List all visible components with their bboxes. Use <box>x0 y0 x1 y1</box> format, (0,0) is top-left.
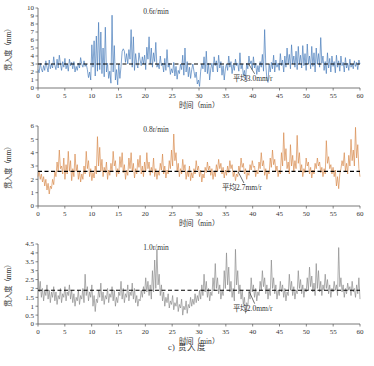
x-tick-label: 10 <box>88 210 96 218</box>
x-tick-label: 30 <box>196 210 204 218</box>
x-tick-label: 30 <box>196 92 204 100</box>
x-tick-label: 25 <box>169 210 177 218</box>
y-tick-label: 3 <box>31 60 35 68</box>
x-tick-label: 55 <box>330 328 338 336</box>
x-tick-label: 50 <box>303 210 311 218</box>
x-tick-label: 30 <box>196 328 204 336</box>
x-tick-label: 5 <box>63 92 67 100</box>
mean-annotation-label: 平均2.7mm/r <box>222 182 262 192</box>
x-tick-label: 25 <box>169 92 177 100</box>
x-tick-label: 50 <box>303 328 311 336</box>
y-axis-title: 贯入度（mm） <box>3 143 13 190</box>
series-title-label: 1.0r/min <box>143 243 169 252</box>
x-tick-label: 40 <box>249 210 257 218</box>
x-tick-label: 35 <box>222 328 230 336</box>
data-series-line <box>38 248 360 316</box>
mean-annotation-label: 平均2.0mm/r <box>233 303 273 313</box>
y-tick-label: 3 <box>31 162 35 170</box>
x-tick-label: 40 <box>249 92 257 100</box>
y-tick-label: 2 <box>31 176 35 184</box>
x-tick-label: 15 <box>115 92 123 100</box>
chart-panel-1.0rmin: 00.511.522.533.544.505101520253035404550… <box>0 236 374 348</box>
y-tick-label: 4 <box>31 249 35 257</box>
penetration-rate-figure: 012345678910051015202530354045505560平均3.… <box>0 0 374 366</box>
y-tick-label: 4 <box>31 52 35 60</box>
y-tick-label: 7 <box>31 28 35 36</box>
y-tick-label: 5 <box>31 136 35 144</box>
plot-area-3: 00.511.522.533.544.505101520253035404550… <box>0 236 374 348</box>
x-tick-label: 40 <box>249 328 257 336</box>
y-tick-label: 0 <box>31 84 35 92</box>
y-tick-label: 6 <box>31 122 35 130</box>
y-tick-label: 4 <box>31 149 35 157</box>
data-series-line <box>38 15 360 86</box>
series-title-label: 0.8r/min <box>143 125 169 134</box>
y-tick-label: 5 <box>31 44 35 52</box>
y-tick-label: 0 <box>31 202 35 210</box>
x-tick-label: 20 <box>142 328 150 336</box>
x-tick-label: 10 <box>88 328 96 336</box>
x-axis-title: 时间（min） <box>179 218 219 228</box>
plot-area-2: 0123456051015202530354045505560平均2.7mm/r… <box>0 118 374 236</box>
annotation-leader-line <box>238 171 244 183</box>
x-axis-title: 时间（min） <box>179 100 219 110</box>
y-tick-label: 0.5 <box>25 312 34 320</box>
y-tick-label: 1.5 <box>25 294 34 302</box>
y-tick-label: 0 <box>31 320 35 328</box>
x-tick-label: 15 <box>115 210 123 218</box>
x-tick-label: 35 <box>222 210 230 218</box>
x-tick-label: 5 <box>63 328 67 336</box>
x-tick-label: 50 <box>303 92 311 100</box>
y-tick-label: 2 <box>31 285 35 293</box>
x-tick-label: 5 <box>63 210 67 218</box>
x-tick-label: 45 <box>276 210 284 218</box>
series-title-label: 0.6r/min <box>143 7 169 16</box>
y-tick-label: 4.5 <box>25 240 34 248</box>
y-tick-label: 2 <box>31 68 35 76</box>
y-tick-label: 3.5 <box>25 258 34 266</box>
x-tick-label: 60 <box>357 210 365 218</box>
x-tick-label: 45 <box>276 328 284 336</box>
y-tick-label: 2.5 <box>25 276 34 284</box>
x-tick-label: 55 <box>330 210 338 218</box>
y-tick-label: 10 <box>27 4 35 12</box>
plot-area-1: 012345678910051015202530354045505560平均3.… <box>0 0 374 118</box>
x-tick-label: 0 <box>36 328 40 336</box>
x-tick-label: 0 <box>36 92 40 100</box>
y-tick-label: 6 <box>31 36 35 44</box>
y-tick-label: 1 <box>31 303 35 311</box>
y-axis-title: 贯入度（mm） <box>3 261 13 308</box>
y-tick-label: 3 <box>31 267 35 275</box>
x-tick-label: 20 <box>142 92 150 100</box>
x-tick-label: 15 <box>115 328 123 336</box>
x-tick-label: 35 <box>222 92 230 100</box>
x-tick-label: 25 <box>169 328 177 336</box>
mean-annotation-label: 平均3.0mm/r <box>233 73 273 83</box>
y-tick-label: 9 <box>31 12 35 20</box>
y-tick-label: 1 <box>31 189 35 197</box>
x-tick-label: 0 <box>36 210 40 218</box>
y-tick-label: 1 <box>31 76 35 84</box>
x-tick-label: 55 <box>330 92 338 100</box>
figure-caption: c) 贯入度 <box>0 340 374 352</box>
data-series-line <box>38 127 360 194</box>
x-tick-label: 60 <box>357 92 365 100</box>
x-tick-label: 45 <box>276 92 284 100</box>
chart-panel-0.8rmin: 0123456051015202530354045505560平均2.7mm/r… <box>0 118 374 236</box>
chart-panel-0.6rmin: 012345678910051015202530354045505560平均3.… <box>0 0 374 118</box>
y-axis-title: 贯入度（mm） <box>3 25 13 72</box>
x-tick-label: 10 <box>88 92 96 100</box>
y-tick-label: 8 <box>31 20 35 28</box>
x-tick-label: 60 <box>357 328 365 336</box>
x-tick-label: 20 <box>142 210 150 218</box>
